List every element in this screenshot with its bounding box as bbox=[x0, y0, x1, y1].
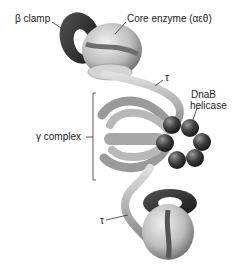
core-enzyme-top bbox=[82, 23, 142, 80]
tau-bottom-label: τ bbox=[100, 215, 104, 226]
dnab-label-line1: DnaB bbox=[191, 89, 216, 100]
beta-clamp-label: β clamp bbox=[15, 13, 50, 24]
core-enzyme-label: Core enzyme (αεθ) bbox=[127, 13, 212, 24]
dnab-helicase bbox=[156, 116, 211, 169]
gamma-complex bbox=[102, 101, 170, 168]
core-enzyme-bottom bbox=[142, 204, 194, 260]
dnab-label-line2: helicase bbox=[190, 100, 227, 111]
tau-top-label: τ bbox=[165, 72, 169, 83]
gamma-complex-label: γ complex bbox=[36, 131, 81, 142]
